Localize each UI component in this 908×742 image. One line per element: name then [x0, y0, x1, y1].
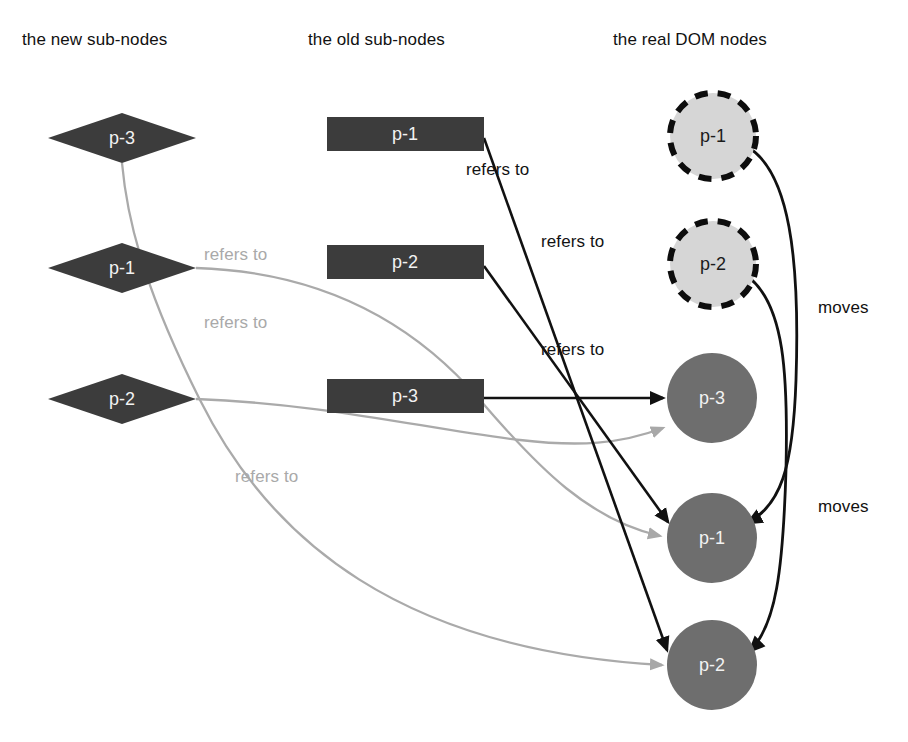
node-old-p1-rect[interactable] [327, 117, 484, 151]
edge-label-refers-to-gray-2: refers to [204, 313, 267, 333]
edge-label-refers-to-gray-3: refers to [235, 467, 298, 487]
edge-label-moves-1: moves [818, 298, 869, 318]
node-dom-p3-circle[interactable] [667, 353, 757, 443]
edge-label-refers-to-gray-1: refers to [204, 245, 267, 265]
node-dom-p2-circle[interactable] [667, 620, 757, 710]
node-new-p3-diamond[interactable] [48, 113, 196, 163]
edge-label-refers-to-black-3: refers to [541, 340, 604, 360]
new-sub-nodes-group [48, 113, 196, 424]
real-dom-nodes-group [667, 93, 757, 710]
edge-move-dom-old-p2-to-dom-p2 [744, 274, 787, 651]
node-old-p3-rect[interactable] [327, 379, 484, 413]
old-sub-nodes-group [327, 117, 484, 413]
black-edge-group [484, 138, 668, 650]
edge-old-p2-to-dom-p1 [484, 266, 668, 522]
edge-move-dom-old-p1-to-dom-p1 [746, 146, 797, 523]
node-new-p2-diamond[interactable] [48, 374, 196, 424]
edge-label-moves-2: moves [818, 497, 869, 517]
node-dom-old-p1-circle[interactable] [670, 93, 756, 179]
edge-label-refers-to-black-1: refers to [466, 160, 529, 180]
node-dom-p1-circle[interactable] [667, 493, 757, 583]
diagram-vector-layer [0, 0, 908, 742]
node-new-p1-diamond[interactable] [48, 243, 196, 293]
diagram-canvas: the new sub-nodes the old sub-nodes the … [0, 0, 908, 742]
edge-label-refers-to-black-2: refers to [541, 232, 604, 252]
node-old-p2-rect[interactable] [327, 245, 484, 279]
node-dom-old-p2-circle[interactable] [670, 221, 756, 307]
